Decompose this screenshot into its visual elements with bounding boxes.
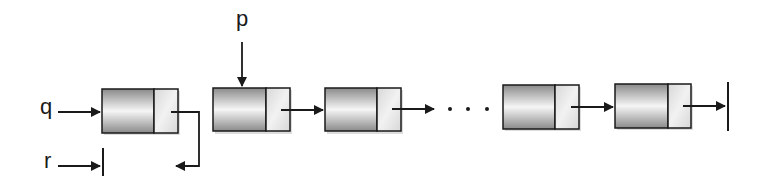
node-2 [213,88,292,134]
node-n [615,84,693,130]
pointer-label-r: r [44,150,51,172]
node-n-1 [503,85,581,131]
pointer-label-p: p [236,8,248,30]
node-3 [325,88,403,134]
node-1 [102,89,180,135]
ellipsis [448,107,489,111]
linked-list-diagram [0,0,768,188]
pointer-label-q: q [40,96,52,118]
